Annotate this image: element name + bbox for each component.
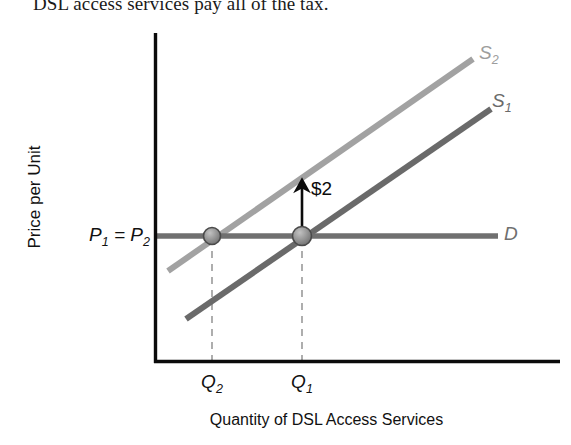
equilibrium-point-q2: [204, 228, 221, 245]
plot-canvas: [0, 0, 571, 445]
equilibrium-point-q1: [293, 227, 312, 246]
supply-demand-figure: DSL access services pay all of the tax. …: [0, 0, 571, 445]
supply-curve-s1: [186, 109, 491, 319]
